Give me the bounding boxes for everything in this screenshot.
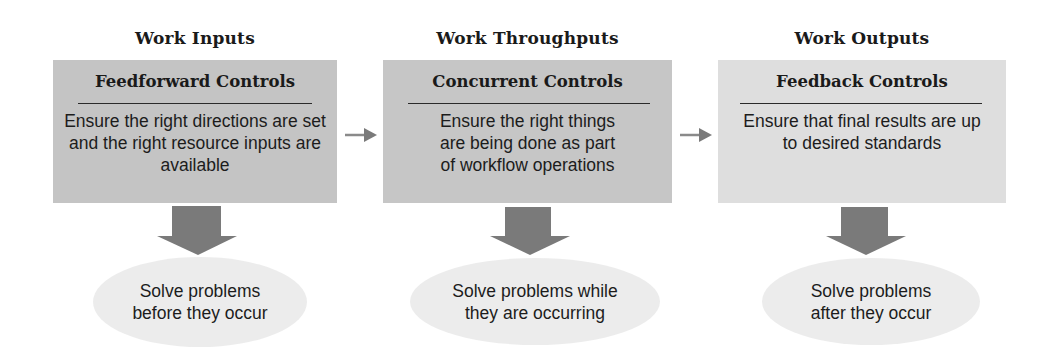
box-description: Ensure the right directions are set and … <box>53 110 337 176</box>
box-title: Feedforward Controls <box>53 72 337 91</box>
outcome-ellipse-after: Solve problems after they occur <box>762 258 980 345</box>
down-arrow-icon <box>157 206 237 255</box>
stage-heading-work-outputs: Work Outputs <box>718 28 1006 48</box>
box-description: Ensure that final results are up to desi… <box>718 110 1006 154</box>
outcome-ellipse-before: Solve problems before they occur <box>93 257 307 347</box>
stage-heading-work-throughputs: Work Throughputs <box>383 28 672 48</box>
title-divider <box>408 103 650 104</box>
title-divider <box>78 103 312 104</box>
outcome-ellipse-during: Solve problems while they are occurring <box>410 258 660 345</box>
box-description: Ensure the right things are being done a… <box>383 110 672 176</box>
down-arrow-icon <box>490 207 570 255</box>
right-arrow-icon <box>680 128 712 142</box>
stage-heading-work-inputs: Work Inputs <box>53 28 337 48</box>
right-arrow-icon <box>345 128 377 142</box>
box-title: Concurrent Controls <box>383 72 672 91</box>
outcome-text: Solve problems while they are occurring <box>452 280 617 324</box>
box-title: Feedback Controls <box>718 72 1006 91</box>
outcome-text: Solve problems before they occur <box>132 280 267 324</box>
feedforward-controls-box: Feedforward Controls Ensure the right di… <box>53 60 337 203</box>
title-divider <box>740 103 982 104</box>
concurrent-controls-box: Concurrent Controls Ensure the right thi… <box>383 60 672 203</box>
outcome-text: Solve problems after they occur <box>811 280 932 324</box>
feedback-controls-box: Feedback Controls Ensure that final resu… <box>718 60 1006 203</box>
down-arrow-icon <box>826 207 906 255</box>
